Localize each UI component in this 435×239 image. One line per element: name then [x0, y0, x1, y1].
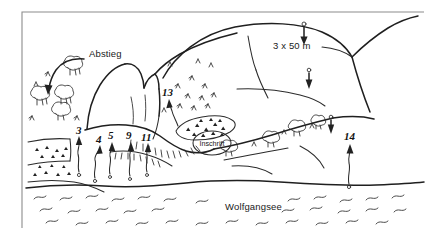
- route-number-4: 4: [95, 133, 102, 145]
- label-inschrift: Inschrift: [199, 139, 224, 148]
- route-number-11: 11: [141, 131, 151, 143]
- label-abstieg: Abstieg: [89, 48, 122, 59]
- topo-drawing-canvas: Abstieg 3 x 50 m Inschrift Wolfgangsee 3…: [0, 0, 435, 239]
- route-number-3: 3: [75, 124, 82, 136]
- route-number-14: 14: [344, 130, 356, 142]
- route-number-9: 9: [126, 129, 132, 141]
- route-number-13: 13: [162, 86, 174, 98]
- label-rappel-length: 3 x 50 m: [273, 40, 311, 51]
- topo-figure: Abstieg 3 x 50 m Inschrift Wolfgangsee 3…: [0, 0, 435, 239]
- route-number-5: 5: [108, 129, 114, 141]
- page-background: [0, 0, 435, 239]
- label-wolfgangsee: Wolfgangsee: [225, 201, 282, 212]
